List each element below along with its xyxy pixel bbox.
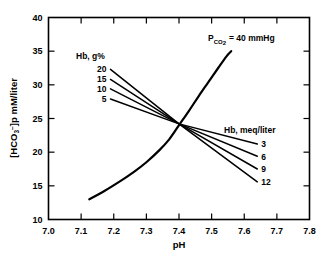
x-tick-label: 7.8 xyxy=(303,226,316,236)
y-tick-label: 30 xyxy=(32,80,42,90)
y-tick-label: 15 xyxy=(32,181,42,191)
x-tick-label: 7.6 xyxy=(238,226,251,236)
right-label-hb-5-gpercent: 3 xyxy=(261,139,266,149)
right-label-hb-15-gpercent: 9 xyxy=(261,164,266,174)
left-label-hb-5-gpercent: 5 xyxy=(102,94,107,104)
x-tick-label: 7.4 xyxy=(173,226,186,236)
x-tick-label: 7.1 xyxy=(75,226,88,236)
right-label-hb-10-gpercent: 6 xyxy=(261,152,266,162)
chart-figure: 7.07.17.27.37.47.57.67.77.8 101520253035… xyxy=(0,0,330,262)
pco2-rest-text: = 40 mmHg xyxy=(229,33,275,43)
chart-background xyxy=(0,0,330,262)
x-axis-tick-labels: 7.07.17.27.37.47.57.67.77.8 xyxy=(42,226,316,236)
y-tick-label: 20 xyxy=(32,147,42,157)
y-tick-label: 10 xyxy=(32,215,42,225)
x-tick-label: 7.0 xyxy=(42,226,55,236)
x-axis-title: pH xyxy=(173,239,186,250)
left-label-hb-20-gpercent: 20 xyxy=(97,64,107,74)
hb-gpercent-header-label: Hb, g% xyxy=(76,51,105,61)
y-axis-title: [HCO3−]p mM/liter xyxy=(8,78,20,158)
right-label-hb-20-gpercent: 12 xyxy=(261,177,271,187)
acid-base-nomogram-chart: 7.07.17.27.37.47.57.67.77.8 101520253035… xyxy=(0,0,330,262)
x-tick-label: 7.3 xyxy=(140,226,153,236)
x-tick-label: 7.2 xyxy=(107,226,120,236)
pco2-subscript: CO xyxy=(214,39,223,45)
x-tick-label: 7.5 xyxy=(205,226,218,236)
y-tick-label: 25 xyxy=(32,114,42,124)
y-tick-label: 40 xyxy=(32,13,42,23)
y-tick-label: 35 xyxy=(32,46,42,56)
hb-meq-header-label: Hb, meq/liter xyxy=(224,125,276,135)
left-label-hb-10-gpercent: 10 xyxy=(97,84,107,94)
x-tick-label: 7.7 xyxy=(271,226,284,236)
